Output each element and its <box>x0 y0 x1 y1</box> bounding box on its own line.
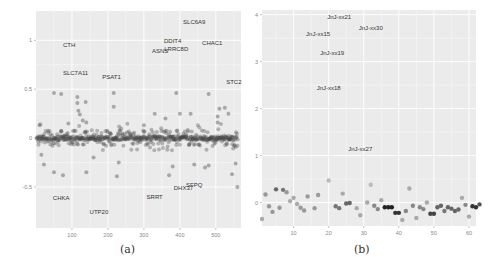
y-tick-label: 0 <box>29 135 32 141</box>
data-point <box>192 162 196 166</box>
data-point <box>477 202 481 206</box>
y-tick-label: 2 <box>255 106 258 112</box>
data-point <box>337 206 341 210</box>
x-tick-label: 30 <box>361 230 367 236</box>
gene-label: CTH <box>63 42 75 48</box>
scatter-plot-b: 10203040506001234JnJ-xx21JnJ-xx30JnJ-xx1… <box>246 0 492 240</box>
data-point <box>84 100 88 104</box>
x-tick-label: 300 <box>139 232 148 238</box>
data-point <box>463 203 467 207</box>
gene-label: SLC7A11 <box>63 70 89 76</box>
x-tick-label: 40 <box>396 230 402 236</box>
data-point <box>171 164 175 168</box>
data-point <box>302 208 306 212</box>
data-point <box>295 202 299 206</box>
compound-label: JnJ-xx27 <box>348 146 373 152</box>
data-point <box>115 174 119 178</box>
data-point <box>284 190 288 194</box>
gene-label: UTP20 <box>90 209 109 215</box>
x-tick-label: 50 <box>431 230 437 236</box>
data-point <box>207 92 211 96</box>
data-point <box>260 217 264 221</box>
data-point <box>414 216 418 220</box>
data-point <box>365 200 369 204</box>
data-point <box>226 112 230 116</box>
compound-label: JnJ-xx18 <box>317 85 342 91</box>
data-point <box>78 113 82 117</box>
data-point <box>348 201 352 205</box>
gene-label: SRRT <box>147 194 164 200</box>
data-point <box>75 95 79 99</box>
data-point <box>316 193 320 197</box>
data-point <box>267 204 271 208</box>
data-point <box>207 163 211 167</box>
plot-background <box>262 10 476 226</box>
data-point <box>312 206 316 210</box>
data-point <box>400 218 404 222</box>
data-point <box>372 204 376 208</box>
data-point <box>66 121 70 125</box>
data-point <box>277 205 281 209</box>
data-point <box>117 161 121 165</box>
data-point <box>84 170 88 174</box>
data-point <box>84 120 88 124</box>
data-point <box>174 91 178 95</box>
y-tick-label: 3 <box>255 59 258 65</box>
data-point <box>274 187 278 191</box>
data-point <box>75 101 79 105</box>
x-tick-label: 60 <box>466 230 472 236</box>
data-point <box>369 182 373 186</box>
gene-label: ASNS <box>152 48 168 54</box>
data-point <box>407 186 411 190</box>
data-point <box>230 172 234 176</box>
data-point <box>59 92 63 96</box>
data-point <box>456 207 460 211</box>
data-point <box>358 213 362 217</box>
y-tick-label: 1 <box>255 153 258 159</box>
data-point <box>298 205 302 209</box>
x-tick-label: 500 <box>211 232 220 238</box>
data-point <box>376 207 380 211</box>
y-tick-label: 4 <box>255 12 258 18</box>
data-point <box>355 206 359 210</box>
data-point <box>397 211 401 215</box>
data-point <box>460 196 464 200</box>
y-tick-label: 1 <box>29 37 32 43</box>
gene-label: CHAC1 <box>202 40 223 46</box>
data-point <box>38 123 42 127</box>
data-point <box>142 123 146 127</box>
data-point <box>263 192 267 196</box>
data-point <box>270 210 274 214</box>
data-point <box>61 173 65 177</box>
gene-label: DDIT4 <box>164 38 182 44</box>
data-point <box>39 153 43 157</box>
data-point <box>467 214 471 218</box>
data-point <box>442 209 446 213</box>
caption-b: (b) <box>354 243 370 256</box>
x-tick-label: 400 <box>175 232 184 238</box>
x-tick-label: 200 <box>103 232 112 238</box>
data-point <box>42 162 46 166</box>
data-point <box>340 191 344 195</box>
data-point <box>305 194 309 198</box>
data-point <box>203 165 207 169</box>
gene-label: SLC6A9 <box>183 19 206 25</box>
data-point <box>291 196 295 200</box>
data-point <box>390 205 394 209</box>
data-point <box>234 161 238 165</box>
data-point <box>92 156 96 160</box>
data-point <box>404 209 408 213</box>
x-tick-label: 10 <box>291 230 297 236</box>
data-point <box>163 117 167 121</box>
compound-label: JnJ-xx21 <box>327 14 352 20</box>
y-tick-label: 0 <box>255 200 258 206</box>
data-point <box>432 212 436 216</box>
data-point <box>411 204 415 208</box>
data-point <box>189 112 193 116</box>
data-point <box>223 106 227 110</box>
data-point <box>421 207 425 211</box>
gene-label: DHX37 <box>174 185 194 191</box>
x-tick-label: 100 <box>67 232 76 238</box>
data-point <box>52 91 56 95</box>
compound-label: JnJ-xx15 <box>306 31 331 37</box>
